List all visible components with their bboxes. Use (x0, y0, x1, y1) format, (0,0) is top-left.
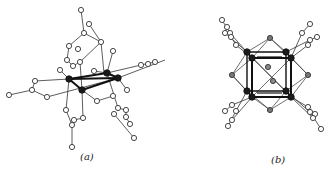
atom-node (225, 123, 230, 128)
metal-atom-node (244, 88, 250, 94)
metal-atom-node (288, 94, 294, 100)
atom-node (310, 115, 315, 120)
atom-node (81, 30, 86, 35)
inner-atom-node (270, 78, 275, 83)
atom-node (131, 135, 136, 140)
atom-node (66, 43, 71, 48)
atom-node (307, 37, 312, 42)
metal-atom-node (115, 75, 121, 81)
bond-line (81, 10, 84, 33)
cage-edge (286, 75, 308, 91)
atom-node (110, 93, 115, 98)
atom-node (305, 104, 310, 109)
atom-node (63, 107, 68, 112)
bond-line (35, 79, 69, 81)
atom-node (32, 78, 37, 83)
atom-node (138, 62, 143, 67)
bond-line (107, 65, 141, 73)
inner-atom-node (265, 64, 270, 69)
atom-node (44, 94, 49, 99)
atom-node (145, 61, 150, 66)
metal-atom-node (283, 88, 289, 94)
atom-node (127, 121, 132, 126)
cage-edge (291, 75, 308, 97)
metal-bond-line (69, 78, 118, 79)
cage-atom-node (267, 107, 272, 112)
atom-node (222, 30, 227, 35)
metal-atom-node (104, 70, 110, 76)
atom-node (233, 42, 238, 47)
atom-node (123, 114, 128, 119)
atom-node (222, 108, 227, 113)
atom-node (75, 46, 80, 51)
bond-line (9, 90, 32, 95)
figure-panel-a: (a) (0, 0, 165, 174)
cage-atom-node (305, 72, 310, 77)
cage-edge (232, 52, 247, 75)
atom-node (94, 98, 99, 103)
atom-node (80, 115, 85, 120)
atom-node (152, 59, 157, 64)
metal-atom-node (79, 87, 85, 93)
metal-atom-node (283, 49, 289, 55)
atom-node (64, 57, 69, 62)
atom-node (229, 117, 234, 122)
atom-node (110, 48, 115, 53)
atom-node (86, 21, 91, 26)
atom-node (6, 92, 11, 97)
cage-edge (232, 58, 252, 75)
atom-node (219, 17, 224, 22)
atom-node (224, 24, 229, 29)
cage-edge (252, 38, 270, 58)
bond-line (82, 90, 83, 118)
bond-line (66, 79, 69, 110)
atom-node (77, 59, 82, 64)
atom-node (314, 34, 319, 39)
cage-edge (270, 97, 291, 110)
cage-atom-node (229, 72, 234, 77)
atom-node (318, 126, 323, 131)
atom-node (69, 144, 74, 149)
cage-edge (270, 91, 286, 110)
atom-node (228, 34, 233, 39)
bond-line (101, 42, 104, 73)
atom-node (98, 39, 103, 44)
metal-atom-node (249, 94, 255, 100)
atom-node (123, 107, 128, 112)
atom-node (115, 105, 120, 110)
atom-node (233, 108, 238, 113)
metal-atom-node (66, 76, 72, 82)
metal-bond-line (82, 78, 118, 90)
atom-node (71, 117, 76, 122)
atom-node (307, 21, 312, 26)
atom-node (229, 102, 234, 107)
metal-atom-node (249, 55, 255, 61)
atom-node (78, 7, 83, 12)
atom-node (305, 42, 310, 47)
atom-node (69, 122, 74, 127)
cage-edge (247, 38, 270, 52)
atom-node (307, 109, 312, 114)
molecule-diagram-b (165, 0, 330, 174)
panel-caption-a: (a) (80, 151, 94, 162)
atom-node (57, 67, 62, 72)
bond-line (80, 42, 101, 62)
atom-node (111, 111, 116, 116)
panel-caption-b: (b) (271, 154, 285, 165)
molecule-diagram-a (0, 0, 165, 174)
metal-atom-node (288, 55, 294, 61)
cage-atom-node (267, 35, 272, 40)
atom-node (29, 87, 34, 92)
atom-node (299, 30, 304, 35)
atom-node (70, 63, 75, 68)
atom-node (91, 68, 96, 73)
figure-panel-b: (b) (165, 0, 330, 174)
metal-atom-node (244, 49, 250, 55)
atom-node (124, 87, 129, 92)
bond-line (89, 24, 101, 42)
